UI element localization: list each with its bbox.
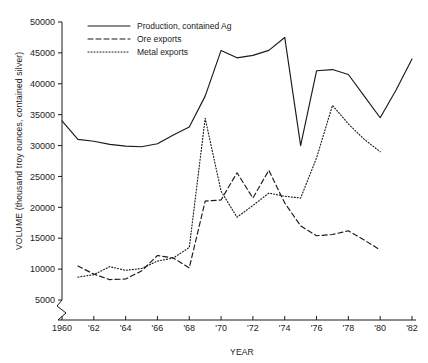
x-axis-tick-label: '78 — [342, 323, 354, 333]
x-axis-tick-label: '62 — [88, 323, 100, 333]
chart-background — [0, 0, 428, 363]
y-axis-tick-label: 50000 — [30, 17, 55, 27]
y-axis-tick-label: 25000 — [30, 172, 55, 182]
x-axis-tick-label: '82 — [406, 323, 418, 333]
y-axis-tick-label: 45000 — [30, 48, 55, 58]
x-axis-tick-label: '76 — [311, 323, 323, 333]
x-axis-tick-label: '80 — [374, 323, 386, 333]
line-chart-canvas: 5000100001500020000250003000035000400004… — [0, 0, 428, 363]
x-axis-tick-label: '70 — [215, 323, 227, 333]
y-axis-tick-label: 5000 — [35, 295, 55, 305]
legend-label-dotted: Metal exports — [137, 47, 188, 57]
chart-figure: 5000100001500020000250003000035000400004… — [0, 0, 428, 363]
y-axis-tick-label: 30000 — [30, 141, 55, 151]
x-axis-tick-label: '66 — [152, 323, 164, 333]
y-axis-tick-label: 40000 — [30, 79, 55, 89]
y-axis-tick-label: 20000 — [30, 203, 55, 213]
y-axis-tick-label: 10000 — [30, 264, 55, 274]
x-axis-tick-label: '74 — [279, 323, 291, 333]
x-axis-tick-label: '68 — [183, 323, 195, 333]
y-axis-title: VOLUME (thousand troy ounces, contained … — [14, 52, 24, 250]
y-axis-tick-label: 35000 — [30, 110, 55, 120]
legend-label-solid: Production, contained Ag — [137, 21, 232, 31]
x-axis-tick-label: '64 — [120, 323, 132, 333]
x-axis-tick-label: 1960 — [52, 323, 72, 333]
x-axis-title: YEAR — [230, 347, 254, 357]
x-axis-tick-label: '72 — [247, 323, 259, 333]
legend-label-dashed: Ore exports — [137, 34, 181, 44]
y-axis-tick-label: 15000 — [30, 233, 55, 243]
